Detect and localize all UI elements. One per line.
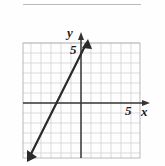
graph-figure: y x 5 5	[0, 0, 165, 166]
plot-line-arrow-end-icon	[82, 39, 92, 49]
plot-line	[30, 44, 86, 156]
y-axis-arrow-icon	[78, 32, 84, 40]
coordinate-plane	[0, 0, 165, 166]
x-axis-tick-label-5: 5	[125, 104, 132, 117]
y-axis-tick-label-5: 5	[70, 43, 77, 56]
y-axis-label: y	[67, 26, 73, 39]
x-axis-label: x	[141, 105, 148, 118]
